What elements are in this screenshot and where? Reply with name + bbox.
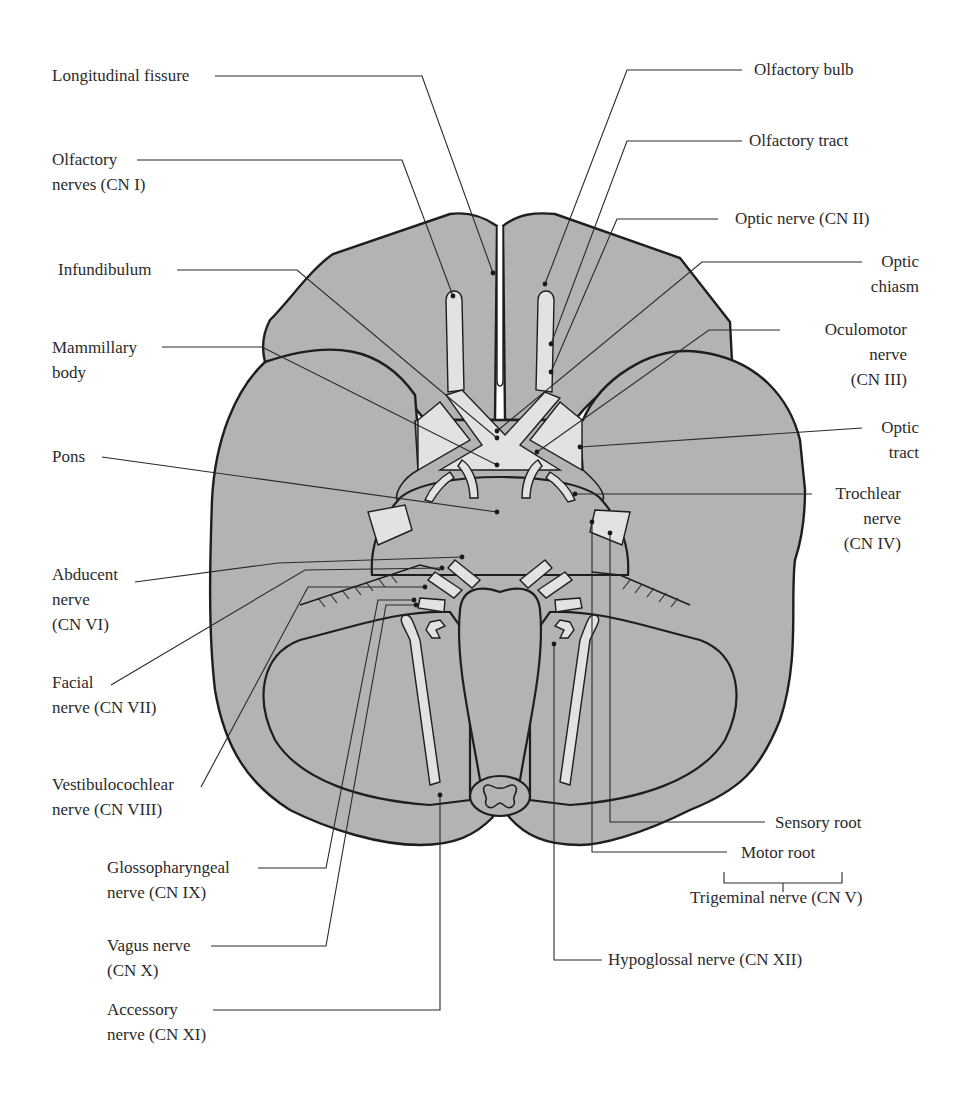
right-olfactory-tract bbox=[536, 291, 554, 392]
label-facial-line2: nerve (CN VII) bbox=[52, 695, 156, 720]
label-accessory-line1: Accessory bbox=[107, 997, 178, 1022]
label-optic-chiasm-line1: Optic bbox=[881, 249, 919, 274]
label-abducent-line2: nerve bbox=[52, 587, 90, 612]
label-oculomotor-line3: (CN III) bbox=[851, 367, 907, 392]
label-facial-line1: Facial bbox=[52, 670, 94, 695]
label-optic-chiasm-line2: chiasm bbox=[871, 274, 919, 299]
label-abducent-line3: (CN VI) bbox=[52, 612, 109, 637]
label-glossopharyngeal-line1: Glossopharyngeal bbox=[107, 855, 230, 880]
label-olfactory-nerves-line2: nerves (CN I) bbox=[52, 172, 145, 197]
longitudinal-fissure-shape bbox=[497, 226, 503, 386]
label-abducent-line1: Abducent bbox=[52, 562, 118, 587]
label-sensory-root: Sensory root bbox=[775, 810, 861, 835]
label-mammillary-body-line2: body bbox=[52, 360, 86, 385]
label-oculomotor-line1: Oculomotor bbox=[825, 317, 907, 342]
label-mammillary-body-line1: Mammillary bbox=[52, 335, 137, 360]
label-trochlear-line1: Trochlear bbox=[836, 481, 901, 506]
label-trigeminal-nerve: Trigeminal nerve (CN V) bbox=[690, 885, 862, 910]
label-vestibulocochlear-line2: nerve (CN VIII) bbox=[52, 797, 162, 822]
label-optic-tract-line2: tract bbox=[889, 440, 919, 465]
label-olfactory-nerves-line1: Olfactory bbox=[52, 147, 117, 172]
label-optic-tract-line1: Optic bbox=[881, 415, 919, 440]
label-vagus-line1: Vagus nerve bbox=[107, 933, 191, 958]
label-olfactory-bulb: Olfactory bulb bbox=[754, 57, 854, 82]
label-vagus-line2: (CN X) bbox=[107, 958, 158, 983]
label-glossopharyngeal-line2: nerve (CN IX) bbox=[107, 880, 206, 905]
brain-cranial-nerves-diagram bbox=[0, 0, 961, 1095]
label-vestibulocochlear-line1: Vestibulocochlear bbox=[52, 772, 174, 797]
label-hypoglossal-nerve: Hypoglossal nerve (CN XII) bbox=[608, 947, 802, 972]
label-trochlear-line3: (CN IV) bbox=[844, 531, 901, 556]
label-trochlear-line2: nerve bbox=[863, 506, 901, 531]
label-pons: Pons bbox=[52, 444, 85, 469]
label-infundibulum: Infundibulum bbox=[58, 257, 152, 282]
label-longitudinal-fissure: Longitudinal fissure bbox=[52, 63, 189, 88]
label-accessory-line2: nerve (CN XI) bbox=[107, 1022, 206, 1047]
left-olfactory-tract bbox=[446, 291, 464, 392]
label-olfactory-tract: Olfactory tract bbox=[749, 128, 849, 153]
label-optic-nerve: Optic nerve (CN II) bbox=[735, 206, 870, 231]
label-motor-root: Motor root bbox=[741, 840, 815, 865]
label-oculomotor-line2: nerve bbox=[869, 342, 907, 367]
